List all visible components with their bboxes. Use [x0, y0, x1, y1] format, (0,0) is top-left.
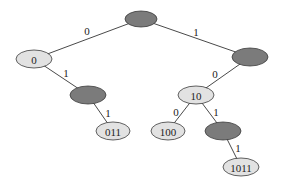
edge-label: 1	[193, 26, 199, 38]
edge-label: 1	[235, 142, 241, 154]
node-label: 10	[191, 90, 203, 102]
leaf-node-n0: 0	[16, 50, 52, 68]
edge-label: 1	[105, 107, 111, 119]
leaf-node-n011: 011	[96, 122, 130, 140]
edge-label: 0	[84, 25, 90, 37]
edge-label: 0	[212, 68, 218, 80]
internal-node-n1	[232, 48, 268, 66]
internal-node-n101	[205, 122, 241, 140]
internal-node-root	[125, 11, 157, 27]
trie-canvas: 01101011 0100111001011	[0, 0, 282, 188]
node-ellipse	[125, 11, 157, 27]
node-label: 0	[31, 54, 37, 66]
leaf-node-n1011: 1011	[223, 158, 259, 176]
edge-root-n1	[141, 19, 250, 57]
node-ellipse	[70, 86, 106, 104]
node-label: 100	[160, 126, 177, 138]
edges-layer	[34, 19, 250, 167]
leaf-node-n100: 100	[151, 122, 185, 140]
leaf-node-n10: 10	[178, 86, 214, 104]
nodes-layer: 0100111001011	[16, 11, 268, 176]
edge-label: 0	[173, 106, 179, 118]
node-ellipse	[205, 122, 241, 140]
trie-diagram: 01101011 0100111001011	[0, 0, 282, 188]
edge-label: 1	[63, 67, 69, 79]
node-ellipse	[232, 48, 268, 66]
node-label: 1011	[230, 162, 252, 174]
node-label: 011	[105, 126, 121, 138]
edge-label: 1	[213, 106, 219, 118]
internal-node-n01	[70, 86, 106, 104]
